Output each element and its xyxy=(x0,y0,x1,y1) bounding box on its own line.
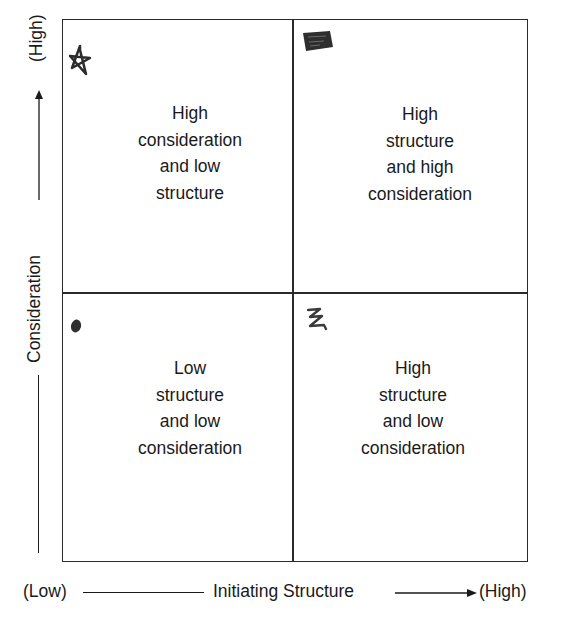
x-axis-arrow-icon xyxy=(395,587,477,599)
x-axis-low-label: (Low) xyxy=(23,581,67,602)
vertical-divider xyxy=(292,19,294,562)
quadrant-bottom-left-label: Low structure and low consideration xyxy=(100,355,280,461)
y-axis-line xyxy=(38,375,39,553)
z-scribble-icon xyxy=(304,305,330,333)
quadrant-bottom-right-label: High structure and low consideration xyxy=(323,355,503,461)
y-axis-arrow-icon xyxy=(33,90,45,200)
y-axis-label: Consideration xyxy=(24,255,45,363)
quadrant-top-left-label: High consideration and low structure xyxy=(100,100,280,206)
star-scribble-icon xyxy=(66,44,96,80)
y-axis-high-label: (High) xyxy=(26,14,47,62)
horizontal-divider xyxy=(62,292,528,294)
scribble-block-icon xyxy=(300,27,336,55)
x-axis-label: Initiating Structure xyxy=(213,581,354,602)
dot-icon xyxy=(69,317,83,335)
x-axis-line-left xyxy=(83,592,204,593)
quadrant-top-right-label: High structure and high consideration xyxy=(330,101,510,207)
x-axis-high-label: (High) xyxy=(479,581,527,602)
